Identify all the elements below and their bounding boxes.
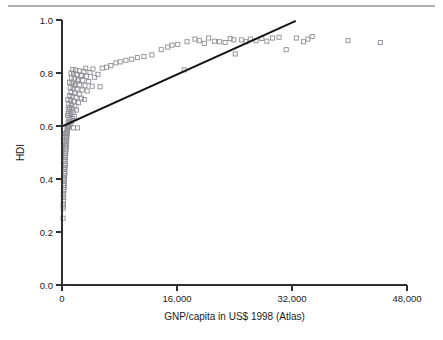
data-point — [90, 84, 94, 88]
data-point — [202, 41, 206, 45]
y-tick-label: 0.6 — [40, 121, 53, 132]
data-point — [87, 79, 91, 83]
data-point — [166, 45, 170, 49]
x-tick-label: 16,000 — [162, 293, 191, 304]
data-point — [75, 126, 79, 130]
y-tick-label: 0.2 — [40, 227, 53, 238]
data-point — [79, 96, 83, 100]
data-point — [124, 58, 128, 62]
data-point — [284, 48, 288, 52]
data-point — [150, 53, 154, 57]
trendline — [62, 21, 295, 126]
chart-figure: 016,00032,00048,0000.00.20.40.60.81.0GNP… — [0, 0, 443, 340]
x-axis-title: GNP/capita in US$ 1998 (Atlas) — [164, 311, 305, 322]
data-point — [197, 39, 201, 43]
data-point — [80, 88, 84, 92]
trend-line — [62, 21, 295, 126]
data-point — [114, 61, 118, 65]
data-point — [170, 43, 174, 47]
data-point — [81, 78, 85, 82]
data-point — [85, 89, 89, 93]
data-point — [346, 39, 350, 43]
data-point — [159, 48, 163, 52]
data-point — [265, 39, 269, 43]
data-point — [212, 39, 216, 43]
data-point — [130, 57, 134, 61]
data-point — [240, 38, 244, 42]
data-point — [310, 34, 314, 38]
data-point — [294, 36, 298, 40]
y-tick-label: 0.0 — [40, 280, 53, 291]
data-point — [223, 40, 227, 44]
data-point — [271, 36, 275, 40]
y-axis-title: HDI — [15, 144, 26, 161]
y-tick-label: 0.4 — [40, 174, 53, 185]
data-point — [301, 40, 305, 44]
axis-labels: 016,00032,00048,0000.00.20.40.60.81.0GNP… — [15, 15, 422, 323]
data-point — [109, 64, 113, 68]
data-point — [78, 83, 82, 87]
data-point — [98, 85, 102, 89]
data-point — [185, 40, 189, 44]
data-point — [233, 52, 237, 56]
data-point — [306, 37, 310, 41]
x-tick-label: 32,000 — [277, 293, 306, 304]
data-point — [176, 42, 180, 46]
data-point — [142, 55, 146, 59]
data-point — [71, 126, 75, 130]
data-point — [118, 60, 122, 64]
data-point — [207, 36, 211, 40]
x-tick-label: 48,000 — [392, 293, 421, 304]
data-point — [277, 35, 281, 39]
y-tick-label: 0.8 — [40, 68, 53, 79]
x-tick-label: 0 — [59, 293, 64, 304]
data-point — [217, 40, 221, 44]
data-point — [193, 37, 197, 41]
y-tick-label: 1.0 — [40, 15, 53, 26]
data-point — [135, 56, 139, 60]
data-point — [378, 40, 382, 44]
axes — [56, 20, 407, 291]
data-point-group — [61, 34, 382, 220]
scatter-plot: 016,00032,00048,0000.00.20.40.60.81.0GNP… — [0, 0, 443, 340]
data-point — [100, 66, 104, 70]
data-point — [105, 65, 109, 69]
data-point — [82, 97, 86, 101]
data-point — [83, 84, 87, 88]
